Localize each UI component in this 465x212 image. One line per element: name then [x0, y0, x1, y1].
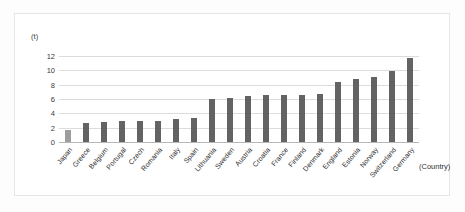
bar-slot: [77, 56, 95, 142]
x-label-slot: Estonia: [347, 144, 365, 200]
y-axis-tick-label: 10: [29, 66, 55, 75]
y-axis-unit-label: (t): [31, 32, 38, 41]
x-label-slot: Italy: [167, 144, 185, 200]
bar-slot: [149, 56, 167, 142]
bar: [83, 123, 89, 142]
y-axis-tick-labels: 024681012: [29, 56, 55, 142]
x-label-slot: Portugal: [113, 144, 131, 200]
bar-slot: [221, 56, 239, 142]
bar-slot: [203, 56, 221, 142]
bar: [299, 95, 305, 142]
bar: [155, 121, 161, 143]
bar-slot: [257, 56, 275, 142]
bar-slot: [329, 56, 347, 142]
x-label-slot: Lithuania: [203, 144, 221, 200]
bar: [245, 96, 251, 142]
y-axis-tick-label: 4: [29, 109, 55, 118]
bar-slot: [293, 56, 311, 142]
bar: [281, 95, 287, 142]
x-label-slot: Denmark: [311, 144, 329, 200]
bar-slot: [347, 56, 365, 142]
bar-slot: [365, 56, 383, 142]
bar: [263, 95, 269, 142]
bar: [101, 122, 107, 142]
x-label-slot: France: [275, 144, 293, 200]
bar-slot: [113, 56, 131, 142]
bar: [65, 130, 71, 142]
y-axis-tick-label: 8: [29, 80, 55, 89]
bar-slot: [383, 56, 401, 142]
x-label-slot: Austria: [239, 144, 257, 200]
x-label-slot: Sweden: [221, 144, 239, 200]
bar: [371, 77, 377, 142]
y-axis-tick-label: 6: [29, 95, 55, 104]
x-axis-category-label: Spain: [182, 146, 199, 164]
bar-slot: [311, 56, 329, 142]
x-label-slot: Belgium: [95, 144, 113, 200]
bar: [317, 94, 323, 142]
bar-slot: [167, 56, 185, 142]
bar-slot: [131, 56, 149, 142]
bar: [389, 71, 395, 142]
bar: [407, 58, 413, 142]
bar: [173, 119, 179, 142]
x-label-slot: Spain: [185, 144, 203, 200]
x-axis-title: (Country): [419, 162, 450, 171]
x-label-slot: Czech: [131, 144, 149, 200]
bar-slot: [59, 56, 77, 142]
bar-series: [59, 56, 419, 142]
chart-frame: (t) 024681012 JapanGreeceBelgiumPortugal…: [14, 13, 450, 196]
bar-slot: [239, 56, 257, 142]
bar: [227, 98, 233, 142]
bar: [191, 118, 197, 142]
bar: [119, 121, 125, 142]
y-axis-tick-label: 0: [29, 138, 55, 147]
x-axis-baseline: [59, 142, 419, 143]
x-label-slot: Croatia: [257, 144, 275, 200]
bar: [335, 82, 341, 142]
x-label-slot: Japan: [59, 144, 77, 200]
x-label-slot: Greece: [77, 144, 95, 200]
bar-slot: [95, 56, 113, 142]
x-axis-category-labels: JapanGreeceBelgiumPortugalCzechRomaniaIt…: [59, 144, 419, 200]
bar-slot: [275, 56, 293, 142]
bar: [137, 121, 143, 142]
x-axis-category-label: Italy: [168, 146, 182, 161]
bar-slot: [401, 56, 419, 142]
x-label-slot: Switzerland: [383, 144, 401, 200]
bar: [353, 79, 359, 142]
y-axis-tick-label: 2: [29, 123, 55, 132]
x-label-slot: Germany: [401, 144, 419, 200]
x-label-slot: Romania: [149, 144, 167, 200]
bar: [209, 99, 215, 142]
y-axis-tick-label: 12: [29, 52, 55, 61]
x-label-slot: Finland: [293, 144, 311, 200]
x-label-slot: England: [329, 144, 347, 200]
bar-slot: [185, 56, 203, 142]
